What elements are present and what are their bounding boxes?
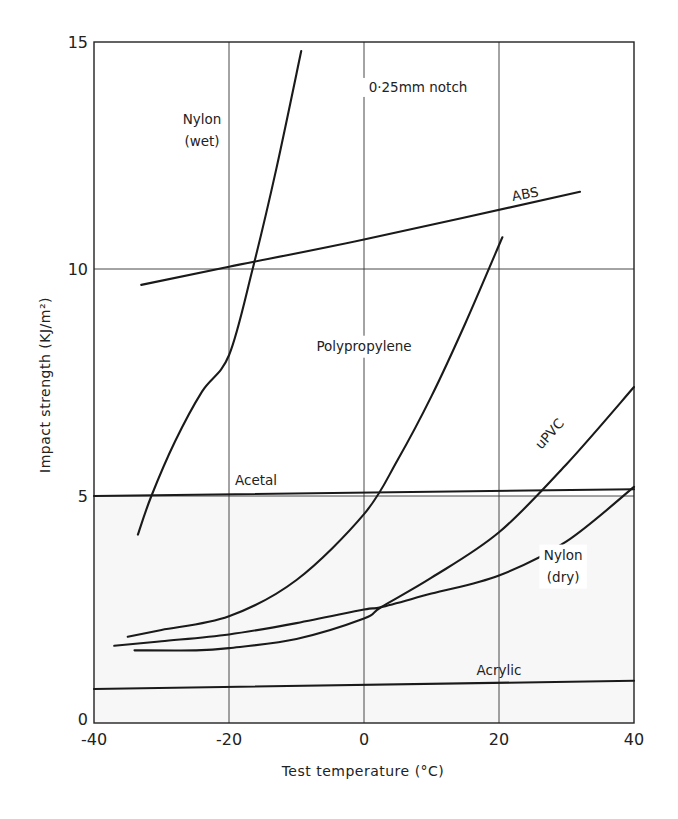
- x-tick-label: -20: [216, 730, 242, 749]
- y-tick-label: 5: [78, 487, 88, 506]
- series-label-nylon-wet: Nylon: [183, 111, 222, 127]
- x-tick-label: 40: [624, 730, 644, 749]
- x-tick-label: 20: [489, 730, 509, 749]
- series-label-nylon-dry: Nylon: [544, 547, 583, 563]
- y-tick-label: 10: [68, 260, 88, 279]
- series-label-acrylic: Acrylic: [477, 662, 522, 678]
- impact-strength-chart: Nylon(wet)ABSPolypropyleneuPVCNylon(dry)…: [0, 0, 678, 819]
- y-tick-label: 0: [78, 710, 88, 729]
- series-label-acetal: Acetal: [235, 472, 277, 488]
- notch-annotation: 0·25mm notch: [369, 79, 468, 95]
- x-axis-label: Test temperature (°C): [281, 763, 445, 779]
- series-line-abs: [141, 192, 580, 285]
- series-label-upvc: uPVC: [532, 415, 568, 452]
- x-tick-label: -40: [81, 730, 107, 749]
- y-axis-ticks: 051015: [68, 33, 88, 729]
- y-axis-label: Impact strength (KJ/m²): [37, 297, 53, 473]
- series-label-nylon-dry: (dry): [547, 569, 580, 585]
- x-tick-label: 0: [359, 730, 369, 749]
- series-label-polypropylene: Polypropylene: [316, 338, 411, 354]
- series-label-nylon-wet: (wet): [184, 133, 219, 149]
- x-axis-ticks: -40-2002040: [81, 730, 644, 749]
- y-tick-label: 15: [68, 33, 88, 52]
